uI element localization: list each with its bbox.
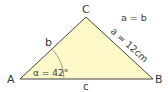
angle-label-alpha: α = 42° [33,68,68,78]
side-label-c: c [83,81,89,92]
vertex-label-c: C [82,3,90,16]
vertex-label-a: A [7,73,15,86]
side-label-b: b [45,36,52,49]
vertex-label-b: B [155,73,163,86]
triangle-diagram: A B C b c a = 12cm α = 42° a = b [0,0,168,92]
equality-note: a = b [121,12,147,23]
